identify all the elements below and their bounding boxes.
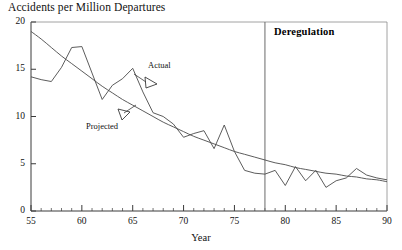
- x-tick-label: 85: [324, 216, 348, 226]
- x-tick-label: 55: [19, 216, 43, 226]
- x-axis-title: Year: [0, 232, 402, 243]
- projected-callout-arrow: [118, 105, 136, 120]
- projected-series-label: Projected: [86, 121, 118, 131]
- chart-container: Accidents per Million Departures Deregul…: [0, 0, 402, 250]
- y-tick-label: 20: [3, 16, 25, 26]
- x-tick-label: 75: [222, 216, 246, 226]
- x-tick-label: 70: [172, 216, 196, 226]
- actual-series-line: [31, 47, 387, 188]
- actual-callout-arrow: [134, 74, 157, 88]
- y-tick-label: 10: [3, 111, 25, 121]
- y-axis-ticks: [31, 22, 36, 211]
- y-tick-label: 0: [3, 205, 25, 215]
- y-tick-label: 15: [3, 63, 25, 73]
- x-tick-label: 80: [273, 216, 297, 226]
- y-tick-label: 5: [3, 158, 25, 168]
- x-tick-label: 90: [375, 216, 399, 226]
- x-tick-label: 65: [121, 216, 145, 226]
- plot-area: [0, 0, 402, 250]
- deregulation-label: Deregulation: [274, 26, 335, 37]
- actual-series-label: Actual: [148, 60, 171, 70]
- x-tick-label: 60: [70, 216, 94, 226]
- x-axis-major-ticks: [31, 205, 387, 211]
